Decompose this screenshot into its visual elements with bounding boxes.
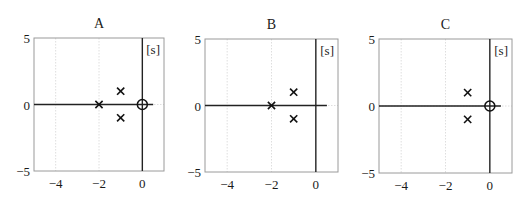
plot-a: A[s]−4−2050−5 xyxy=(16,16,164,191)
y-tick-label: 0 xyxy=(24,98,31,113)
x-tick-label: −4 xyxy=(394,178,408,193)
pole-x-marker-icon xyxy=(464,116,471,123)
pole-zero-plots-svg: A[s]−4−2050−5B[s]−4−2050−5C[s]−4−2050−5 xyxy=(0,0,529,199)
pole-zero-figure: A[s]−4−2050−5B[s]−4−2050−5C[s]−4−2050−5 xyxy=(0,0,529,199)
plane-label: [s] xyxy=(494,43,508,58)
y-tick-label: −5 xyxy=(187,165,201,180)
plane-label: [s] xyxy=(146,42,160,57)
plot-b: B[s]−4−2050−5 xyxy=(187,17,338,192)
x-tick-label: −2 xyxy=(265,177,279,192)
y-tick-label: 5 xyxy=(369,32,376,47)
pole-x-marker-icon xyxy=(117,88,124,95)
plot-title: C xyxy=(441,17,450,32)
pole-x-marker-icon xyxy=(464,89,471,96)
pole-x-marker-icon xyxy=(117,114,124,121)
y-tick-label: 0 xyxy=(195,99,202,114)
x-tick-label: 0 xyxy=(313,177,320,192)
x-tick-label: 0 xyxy=(487,178,494,193)
plot-title: B xyxy=(267,17,276,32)
y-tick-label: −5 xyxy=(16,164,30,179)
plane-label: [s] xyxy=(320,43,334,58)
y-tick-label: −5 xyxy=(361,166,375,181)
y-tick-label: 5 xyxy=(24,31,31,46)
y-tick-label: 5 xyxy=(195,32,202,47)
x-tick-label: −2 xyxy=(439,178,453,193)
y-tick-label: 0 xyxy=(369,99,376,114)
plot-title: A xyxy=(94,16,105,31)
x-tick-label: −4 xyxy=(49,176,63,191)
x-tick-label: 0 xyxy=(139,176,146,191)
pole-x-marker-icon xyxy=(290,115,297,122)
plot-c: C[s]−4−2050−5 xyxy=(361,17,512,193)
x-tick-label: −4 xyxy=(220,177,234,192)
x-tick-label: −2 xyxy=(92,176,106,191)
pole-x-marker-icon xyxy=(290,89,297,96)
